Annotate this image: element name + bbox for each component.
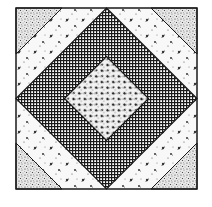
quilt-block [0,0,212,207]
